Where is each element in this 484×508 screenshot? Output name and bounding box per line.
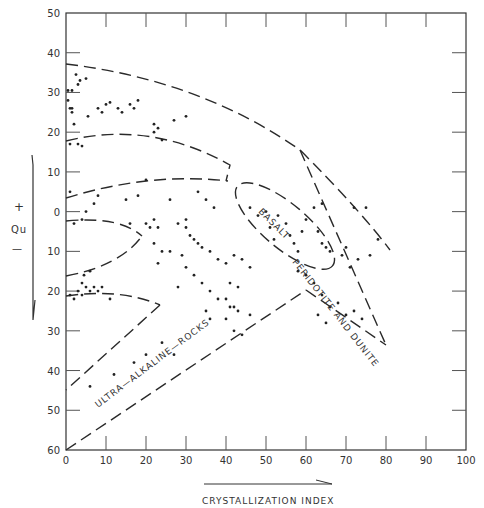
x-tick-label: 90 [420,455,433,466]
data-point [201,282,204,285]
data-point [293,242,296,245]
data-point [153,242,156,245]
data-point [305,218,308,221]
data-point [177,222,180,225]
data-point [301,230,304,233]
x-arrow-head [316,480,332,484]
data-point [71,107,74,110]
data-point [97,194,100,197]
data-point [241,258,244,261]
data-point [153,123,156,126]
data-point [83,274,86,277]
data-point [89,290,92,293]
data-point [357,258,360,261]
data-point [285,222,288,225]
data-point [169,250,172,253]
data-point [153,218,156,221]
data-point [101,286,104,289]
data-point [193,274,196,277]
data-point [233,329,236,332]
lower-wedge-upper [66,293,160,305]
data-point [353,310,356,313]
data-point [249,266,252,269]
data-point [137,194,140,197]
upper-envelope-curve [66,64,390,250]
x-axis-title-group: CRYSTALLIZATION INDEX [202,480,334,506]
data-point [77,143,80,146]
data-point [277,214,280,217]
data-point [161,341,164,344]
x-tick-label: 80 [380,455,393,466]
x-tick-label: 20 [140,455,153,466]
basalt-ellipse [223,169,346,282]
data-point [321,202,324,205]
x-tick-label: 10 [100,455,113,466]
data-point [213,206,216,209]
y-qu: Qu [11,224,27,235]
data-point [97,290,100,293]
y-minus: — [12,243,23,254]
data-point [229,282,232,285]
data-point [153,131,156,134]
data-point [161,139,164,142]
data-point [217,298,220,301]
y-axis-arrow [32,155,35,320]
data-points [67,73,380,388]
data-point [81,145,84,148]
data-point [337,302,340,305]
data-point [67,89,70,92]
data-point [161,250,164,253]
data-point [117,107,120,110]
data-point [209,290,212,293]
data-point [369,254,372,257]
data-point [189,234,192,237]
y-tick-label: 40 [47,48,60,59]
data-point [129,222,132,225]
data-point [217,258,220,261]
data-point [197,242,200,245]
data-point [89,385,92,388]
data-point [73,222,76,225]
ultra-alkaline-lower [66,290,306,450]
data-point [137,99,140,102]
data-point [109,298,112,301]
data-point [225,262,228,265]
data-point [101,111,104,114]
data-point [249,314,252,317]
x-tick-label: 40 [220,455,233,466]
data-point [237,310,240,313]
data-point [79,79,82,82]
data-point [349,266,352,269]
data-point [69,190,72,193]
x-tick-label: 70 [340,455,353,466]
y-tick-label: 30 [47,87,60,98]
data-point [329,250,332,253]
data-point [225,318,228,321]
y-tick-label: 30 [47,326,60,337]
data-point [185,266,188,269]
data-point [317,230,320,233]
data-point [85,210,88,213]
data-point [109,101,112,104]
data-point [145,179,148,182]
data-point [353,206,356,209]
y-tick-label: 60 [47,445,60,456]
x-tick-label: 30 [180,455,193,466]
data-point [181,254,184,257]
data-point [93,202,96,205]
data-point [345,246,348,249]
data-point [173,119,176,122]
x-tick-label: 60 [300,455,313,466]
x-tick-label: 50 [260,455,273,466]
y-plus: + [14,200,25,214]
x-axis-title: CRYSTALLIZATION INDEX [202,496,334,506]
data-point [297,250,300,253]
data-point [169,198,172,201]
data-point [313,206,316,209]
ultra-alkaline-label: ULTRA—ALKALINE—ROCKS [93,317,211,409]
y-tick-label: 20 [47,127,60,138]
x-tick-label: 100 [456,455,475,466]
data-point [377,238,380,241]
data-point [193,238,196,241]
data-point [197,190,200,193]
